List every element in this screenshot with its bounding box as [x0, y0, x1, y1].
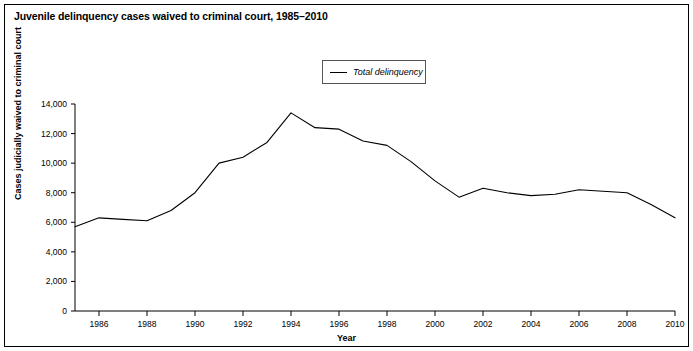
x-tick-label: 2008 [618, 319, 637, 329]
x-tick-label: 1990 [186, 319, 205, 329]
x-tick-label: 1994 [282, 319, 301, 329]
legend-label: Total delinquency [353, 67, 423, 77]
axis-lines [75, 104, 675, 311]
x-tick-label: 1986 [90, 319, 109, 329]
line-chart-plot [0, 0, 693, 351]
x-tick-label: 1996 [330, 319, 349, 329]
x-tick-label: 1988 [138, 319, 157, 329]
chart-figure: Juvenile delinquency cases waived to cri… [0, 0, 693, 351]
x-tick-label: 1998 [378, 319, 397, 329]
x-tick-label: 2004 [522, 319, 541, 329]
y-tick-label: 4,000 [46, 247, 67, 257]
y-tick-label: 14,000 [41, 99, 67, 109]
y-tick-label: 6,000 [46, 217, 67, 227]
x-axis-title: Year [0, 333, 693, 343]
x-tick-label: 2000 [426, 319, 445, 329]
y-tick-label: 2,000 [46, 276, 67, 286]
x-tick-label: 2002 [474, 319, 493, 329]
y-tick-label: 10,000 [41, 158, 67, 168]
x-tick-label: 2010 [666, 319, 685, 329]
y-tick-label: 12,000 [41, 129, 67, 139]
y-tick-label: 8,000 [46, 188, 67, 198]
x-tick-label: 1992 [234, 319, 253, 329]
x-tick-label: 2006 [570, 319, 589, 329]
y-tick-label: 0 [62, 306, 67, 316]
data-series-group [75, 113, 675, 227]
y-axis-title: Cases judicially waived to criminal cour… [13, 27, 23, 200]
chart-legend: Total delinquency [322, 60, 426, 84]
y-axis-ticks [71, 104, 75, 311]
x-axis-ticks [99, 311, 675, 316]
legend-line-swatch [330, 72, 347, 73]
